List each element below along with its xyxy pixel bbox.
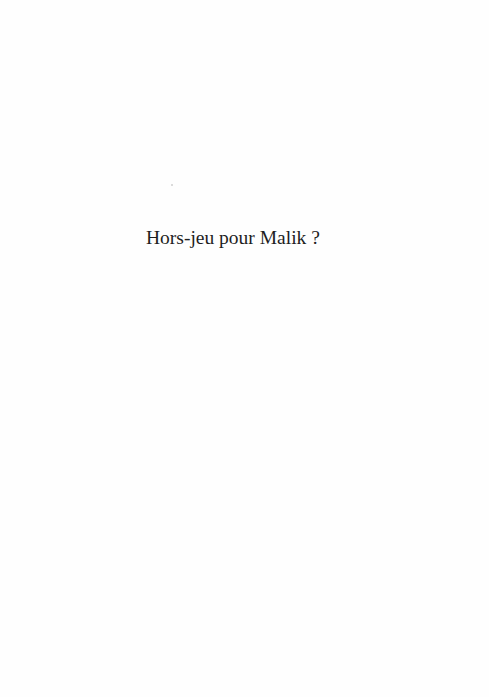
page-title: Hors-jeu pour Malik ? [146, 227, 320, 249]
book-page: Hors-jeu pour Malik ? [0, 0, 489, 697]
scan-speck [171, 184, 173, 186]
